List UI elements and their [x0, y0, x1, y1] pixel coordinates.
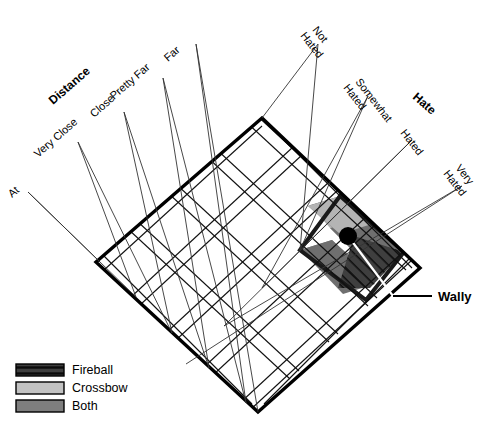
grid-line-dist-1a — [131, 147, 293, 297]
axis-title-hate: Hate — [410, 90, 439, 118]
diagram-root: Wally Distance Hate At Very Close Close … — [0, 0, 496, 429]
legend: Fireball Crossbow Both — [16, 363, 129, 413]
grid-line-hate-2a — [167, 192, 329, 342]
hate-labels-group: Not Hated Somewhat Hated Hated Very Hate… — [298, 21, 479, 198]
legend-item-fireball[interactable]: Fireball — [16, 363, 113, 377]
distance-label-far: Far — [161, 43, 182, 63]
hate-label-hated: Hated — [398, 127, 426, 158]
legend-item-both[interactable]: Both — [16, 399, 98, 413]
axis-title-distance: Distance — [46, 64, 93, 108]
both-swatch — [16, 400, 64, 412]
distance-label-at: At — [5, 184, 21, 200]
shaded-cells-group — [300, 196, 404, 300]
fireball-swatch — [16, 364, 64, 376]
hate-label-not-hated: Not Hated — [298, 21, 336, 60]
wally-label: Wally — [438, 289, 472, 304]
distance-label-very-close: Very Close — [31, 116, 79, 160]
legend-item-crossbow[interactable]: Crossbow — [16, 381, 129, 395]
grid-line-dist-4b — [250, 260, 412, 410]
leader-far-1 — [196, 44, 246, 403]
hate-label-somewhat-hated: Somewhat Hated — [341, 73, 395, 132]
wally-position-dot[interactable] — [339, 227, 357, 245]
distance-labels-group: At Very Close Close Pretty Far Far — [5, 43, 182, 199]
distance-label-pretty-far: Pretty Far — [107, 61, 152, 102]
crossbow-swatch — [16, 382, 64, 394]
hate-label-very-hated: Very Hated — [441, 159, 479, 198]
legend-label-crossbow: Crossbow — [72, 381, 129, 395]
leader-at-2 — [28, 192, 136, 297]
leader-nothated-1 — [262, 44, 318, 118]
leader-veryclose-2 — [78, 142, 172, 333]
hate-label-hated-l1: Hated — [398, 127, 426, 158]
legend-label-fireball: Fireball — [72, 363, 113, 377]
legend-label-both: Both — [72, 399, 98, 413]
distance-hate-matrix-diagram: Wally Distance Hate At Very Close Close … — [0, 0, 496, 429]
leader-nothated-2 — [300, 44, 318, 250]
